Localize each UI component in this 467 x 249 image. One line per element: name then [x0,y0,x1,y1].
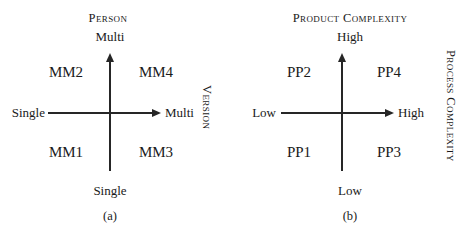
panel-a-y-axis-title: Person [0,11,234,26]
panel-a-x-axis-arrow-icon [152,109,161,117]
panel-b: Product Complexity High PP2 PP4 PP1 PP3 … [233,0,467,249]
panel-b-x-axis-right-value: High [398,105,424,121]
panel-b-x-axis-left-value: Low [233,105,276,121]
panel-b-horizontal-axis [281,112,387,114]
panel-b-quadrant-top-left: PP2 [269,64,329,81]
panel-b-caption: (b) [233,209,467,224]
quadrant-figure: Person Multi MM2 MM4 MM1 MM3 Single Mult… [0,0,467,249]
panel-a-quadrant-top-right: MM4 [126,64,186,81]
panel-b-y-axis-arrow-icon [338,53,346,62]
panel-a-horizontal-axis [48,112,154,114]
panel-a-caption: (a) [0,209,234,224]
panel-b-y-axis-top-value: High [233,29,467,45]
panel-a-y-axis-bottom-value: Single [0,183,234,199]
panel-b-y-axis-bottom-value: Low [233,183,467,199]
panel-a-x-axis-right-value: Multi [165,105,194,121]
panel-a-x-axis-left-value: Single [0,105,45,121]
panel-b-x-axis-title: Process Complexity [443,50,458,162]
panel-b-x-axis-arrow-icon [385,109,394,117]
panel-a-quadrant-bottom-left: MM1 [36,144,96,161]
panel-a-y-axis-top-value: Multi [0,29,234,45]
panel-b-quadrant-top-right: PP4 [359,64,419,81]
panel-a-y-axis-arrow-icon [106,53,114,62]
panel-b-quadrant-bottom-left: PP1 [269,144,329,161]
panel-b-y-axis-title: Product Complexity [233,11,467,26]
panel-a: Person Multi MM2 MM4 MM1 MM3 Single Mult… [0,0,234,249]
panel-a-vertical-axis [109,61,111,171]
panel-b-vertical-axis [341,61,343,171]
panel-a-quadrant-top-left: MM2 [36,64,96,81]
panel-a-x-axis-title: Version [199,85,214,129]
panel-b-quadrant-bottom-right: PP3 [359,144,419,161]
panel-a-quadrant-bottom-right: MM3 [126,144,186,161]
